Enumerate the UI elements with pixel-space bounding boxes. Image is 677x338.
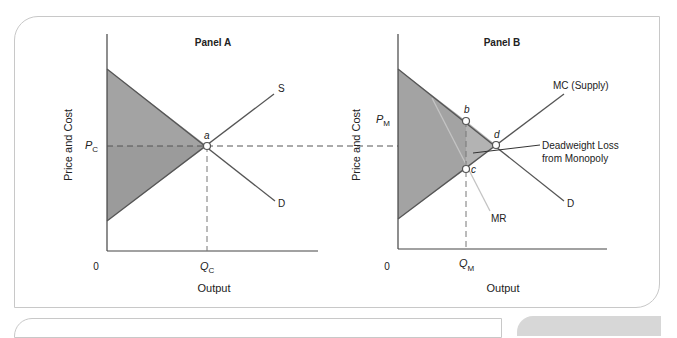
point-b-label: b xyxy=(464,104,470,115)
dwl-label-line1: Deadweight Loss xyxy=(542,140,619,151)
pc-label: PC xyxy=(85,139,98,154)
qm-label-sub: M xyxy=(468,264,475,273)
pm-label: PM xyxy=(376,113,390,128)
deadweight-loss-triangle xyxy=(466,121,496,169)
panel-a-title: Panel A xyxy=(195,37,231,48)
panel-b-title: Panel B xyxy=(484,37,521,48)
mr-label: MR xyxy=(491,213,507,224)
point-b-marker xyxy=(463,118,470,125)
panel-b: Panel B Price and Cost Output 0 PM QM MC… xyxy=(350,34,619,294)
panel-a-x-label: Output xyxy=(197,282,230,294)
panel-b-origin: 0 xyxy=(384,261,390,272)
dwl-label-line2: from Monopoly xyxy=(542,153,608,164)
point-c-label: c xyxy=(471,164,476,175)
qc-label: QC xyxy=(200,260,215,275)
panel-a-y-label: Price and Cost xyxy=(62,109,74,181)
supply-label: S xyxy=(278,83,285,94)
demand-label-b: D xyxy=(567,198,574,209)
qc-label-sub: C xyxy=(209,266,215,275)
point-a-marker xyxy=(204,143,211,150)
pc-label-sub: C xyxy=(92,145,98,154)
qm-label: QM xyxy=(459,257,475,273)
point-d-label: d xyxy=(494,129,500,140)
panel-a-origin: 0 xyxy=(93,261,99,272)
point-c-marker xyxy=(463,166,470,173)
panel-b-x-label: Output xyxy=(486,282,519,294)
panel-b-y-label: Price and Cost xyxy=(350,109,362,181)
pm-label-sub: M xyxy=(383,119,390,128)
point-a-label: a xyxy=(204,130,210,141)
point-d-marker xyxy=(493,142,500,149)
demand-label-a: D xyxy=(278,198,285,209)
mc-supply-label: MC (Supply) xyxy=(553,80,609,91)
